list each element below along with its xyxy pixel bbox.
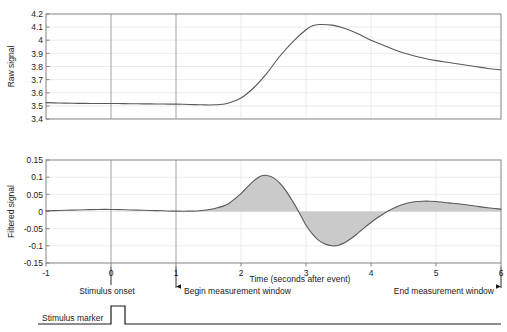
filtered-ytick-label: -0.05 [24,224,44,234]
raw-ytick-label: 3.7 [31,75,43,85]
x-ticks [46,263,501,267]
stimulus-marker-pulse [38,306,501,324]
xtick-label: -1 [42,268,50,278]
xtick-label: 5 [434,268,439,278]
filtered-signal-panel: 0.15 0.1 0.05 0 -0.05 -0.1 -0.15 Filtere… [6,155,504,283]
raw-ytick-label: 4.1 [31,22,43,32]
filtered-y-ticklabels: 0.15 0.1 0.05 0 -0.05 -0.1 -0.15 [24,155,44,268]
begin-window-label: Begin measurement window [184,286,292,296]
raw-y-axis-title: Raw signal [6,46,16,88]
raw-ytick-label: 4 [38,35,43,45]
raw-signal-panel: 4.2 4.1 4 3.9 3.8 3.7 3.6 3.5 3.4 Raw si… [6,9,501,124]
raw-ytick-label: 3.9 [31,49,43,59]
stimulus-marker-trace: Stimulus marker [38,306,501,324]
filtered-ytick-label: -0.15 [24,258,44,268]
filtered-ytick-label: 0 [38,207,43,217]
filtered-ytick-label: -0.1 [28,241,43,251]
begin-window-arrow-icon [176,284,181,289]
xtick-label: 2 [239,268,244,278]
raw-ytick-label: 3.8 [31,62,43,72]
x-axis-title: Time (seconds after event) [250,274,351,284]
figure-svg: 4.2 4.1 4 3.9 3.8 3.7 3.6 3.5 3.4 Raw si… [0,0,507,332]
raw-ytick-label: 3.5 [31,101,43,111]
xtick-label: 4 [369,268,374,278]
raw-y-ticklabels: 4.2 4.1 4 3.9 3.8 3.7 3.6 3.5 3.4 [31,9,43,124]
stimulus-marker-label: Stimulus marker [42,313,104,323]
filtered-y-axis-title: Filtered signal [6,185,16,238]
signal-figure: 4.2 4.1 4 3.9 3.8 3.7 3.6 3.5 3.4 Raw si… [0,0,507,332]
end-window-arrow-icon [496,284,501,289]
filtered-ytick-label: 0.15 [26,155,43,165]
filtered-ytick-label: 0.1 [31,172,43,182]
raw-ytick-label: 3.6 [31,88,43,98]
filtered-ytick-label: 0.05 [26,190,43,200]
stimulus-onset-label: Stimulus onset [79,286,135,296]
end-window-label: End measurement window [394,286,495,296]
raw-ytick-label: 4.2 [31,9,43,19]
raw-ytick-label: 3.4 [31,114,43,124]
